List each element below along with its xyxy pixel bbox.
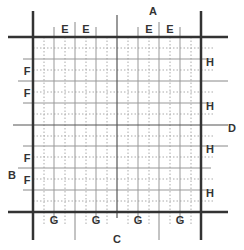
label-c: C [113,233,121,245]
label-g: G [92,214,101,226]
label-h: H [206,187,214,199]
grid-diagram: A B C D E E E E F F F F H H H H G G G G [0,0,244,250]
label-d: D [228,122,236,134]
label-e: E [166,23,173,35]
label-g: G [176,214,185,226]
label-h: H [206,100,214,112]
label-e: E [61,23,68,35]
label-g: G [50,214,59,226]
label-e: E [82,23,89,35]
label-f: F [24,174,31,186]
center-lines [13,15,228,218]
label-h: H [206,143,214,155]
tick-extensions [18,22,228,240]
label-g: G [134,214,143,226]
label-f: F [24,65,31,77]
label-f: F [24,87,31,99]
label-e: E [145,23,152,35]
label-f: F [24,152,31,164]
label-b: B [8,169,16,181]
label-a: A [149,5,157,17]
dotted-grid [33,37,214,226]
label-h: H [206,56,214,68]
